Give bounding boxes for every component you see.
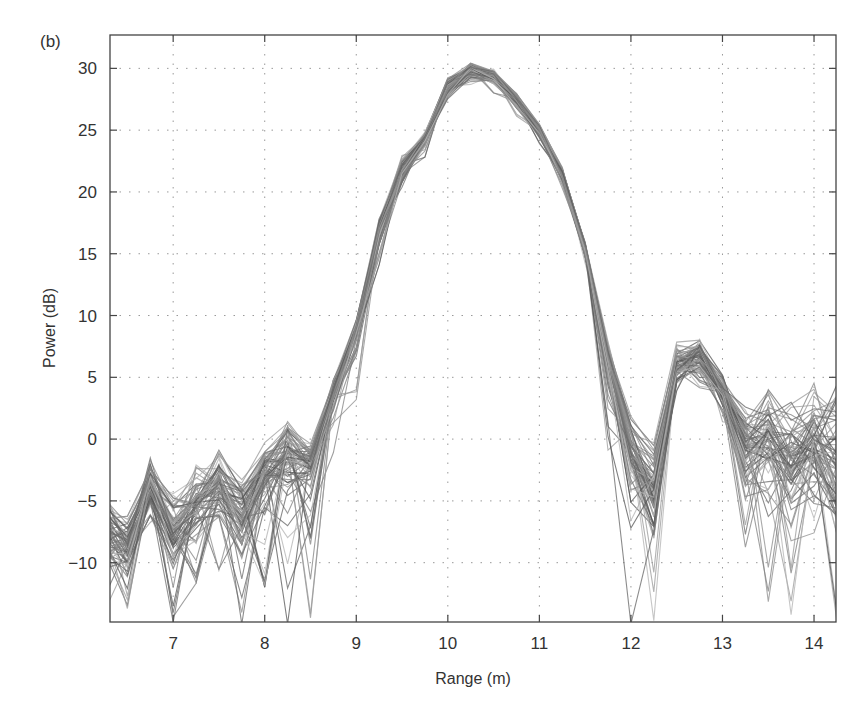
x-tick-label: 8 [260, 634, 269, 653]
data-trace [105, 71, 837, 612]
x-tick-labels: 7891011121314 [168, 634, 823, 653]
data-trace [105, 71, 837, 614]
data-trace [105, 73, 837, 624]
data-trace [105, 78, 837, 613]
axes-frame [110, 35, 836, 622]
x-tick-label: 7 [168, 634, 177, 653]
x-tick-label: 12 [621, 634, 640, 653]
y-tick-labels: 302520151050−5−10 [68, 59, 97, 572]
data-traces [105, 63, 837, 624]
y-tick-label: −5 [78, 492, 97, 511]
x-tick-label: 14 [805, 634, 824, 653]
data-trace [105, 67, 837, 601]
data-trace [105, 70, 837, 536]
data-trace [105, 76, 837, 605]
y-tick-label: 15 [78, 245, 97, 264]
data-trace [105, 63, 837, 538]
data-trace [105, 70, 837, 524]
data-trace [105, 80, 837, 582]
y-axis-label: Power (dB) [41, 288, 58, 368]
data-trace [105, 68, 837, 615]
data-trace [105, 67, 837, 618]
data-trace [105, 66, 837, 542]
data-trace [105, 70, 837, 617]
data-trace [105, 73, 837, 612]
panel-label: (b) [40, 32, 61, 51]
x-tick-label: 13 [713, 634, 732, 653]
data-trace [105, 75, 837, 621]
data-trace [105, 77, 837, 624]
y-tick-label: 10 [78, 307, 97, 326]
x-tick-label: 9 [352, 634, 361, 653]
data-trace [105, 67, 837, 621]
data-trace [105, 66, 837, 622]
y-tick-label: 30 [78, 59, 97, 78]
power-range-chart: 7891011121314 302520151050−5−10 Range (m… [0, 0, 868, 722]
data-trace [105, 78, 837, 598]
data-trace [105, 68, 837, 624]
data-trace [105, 68, 837, 606]
x-tick-label: 11 [531, 634, 549, 653]
y-tick-label: 5 [88, 368, 97, 387]
data-trace [105, 71, 837, 541]
y-tick-label: 25 [78, 121, 97, 140]
data-trace [105, 66, 837, 613]
data-trace [105, 67, 837, 584]
data-trace [105, 69, 837, 581]
axis-ticks [110, 35, 836, 622]
y-tick-label: 0 [88, 430, 97, 449]
x-axis-label: Range (m) [435, 670, 511, 687]
data-trace [105, 70, 837, 585]
data-trace [105, 65, 837, 608]
x-tick-label: 10 [438, 634, 457, 653]
grid-lines [110, 35, 836, 622]
y-tick-label: −10 [68, 554, 97, 573]
y-tick-label: 20 [78, 183, 97, 202]
